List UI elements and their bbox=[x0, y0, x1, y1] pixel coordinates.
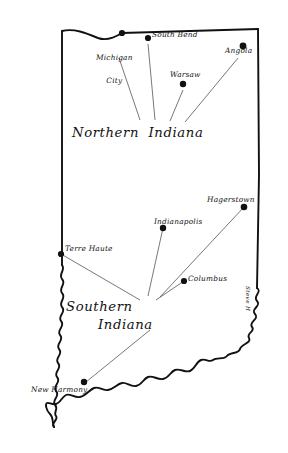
city-label-south-bend: South Bend bbox=[152, 31, 198, 39]
city-dot-michigan-city bbox=[119, 30, 125, 36]
leader-line-columbus bbox=[156, 281, 184, 300]
city-dot-warsaw bbox=[180, 81, 186, 87]
leader-lines-southern bbox=[61, 207, 244, 382]
city-label-new-harmony: New Harmony bbox=[31, 386, 88, 394]
city-label-terre-haute: Terre Haute bbox=[65, 245, 113, 253]
region-label-northern-indiana: Northern Indiana bbox=[72, 126, 203, 140]
city-label-michigan-city-line1: Michigan bbox=[96, 54, 133, 62]
city-dot-terre-haute bbox=[58, 251, 64, 257]
region-label-southern-indiana-line2: Indiana bbox=[98, 318, 153, 332]
leader-line-new-harmony bbox=[86, 330, 150, 382]
leader-line-south-bend bbox=[148, 44, 155, 120]
city-label-angola: Angola bbox=[225, 47, 252, 55]
city-label-hagerstown: Hagerstown bbox=[207, 196, 255, 204]
city-dot-south-bend bbox=[145, 35, 151, 41]
indiana-map: Michigan City South Bend Angola Warsaw H… bbox=[0, 0, 288, 453]
city-dot-hagerstown bbox=[241, 204, 248, 211]
leader-line-terre-haute bbox=[61, 254, 140, 300]
city-label-indianapolis: Indianapolis bbox=[154, 218, 202, 226]
city-label-michigan-city: Michigan City bbox=[96, 38, 133, 100]
city-dot-columbus bbox=[181, 278, 187, 284]
leader-line-indianapolis bbox=[148, 228, 163, 296]
city-label-michigan-city-line2: City bbox=[96, 77, 133, 85]
leader-line-angola bbox=[185, 58, 238, 122]
region-label-southern-indiana-line1: Southern bbox=[66, 300, 133, 314]
leader-line-warsaw bbox=[170, 90, 183, 121]
city-label-columbus: Columbus bbox=[188, 275, 227, 283]
artist-signature: Steve H bbox=[244, 286, 250, 311]
leader-lines-northern bbox=[119, 44, 238, 122]
city-label-warsaw: Warsaw bbox=[170, 71, 201, 79]
